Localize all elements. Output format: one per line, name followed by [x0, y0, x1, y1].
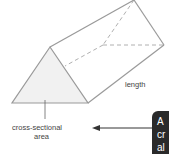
callout-line2: cr	[157, 128, 169, 141]
cross-section-label-line2: area	[34, 132, 49, 141]
callout-line1: A	[157, 115, 169, 128]
cross-section-face	[12, 47, 88, 103]
callout-box: A cr al	[152, 111, 169, 154]
arrow-head-icon	[92, 125, 100, 131]
callout-line3: al	[157, 141, 169, 154]
cross-section-label-line1: cross-sectional	[12, 123, 62, 132]
length-label: length	[125, 80, 145, 89]
